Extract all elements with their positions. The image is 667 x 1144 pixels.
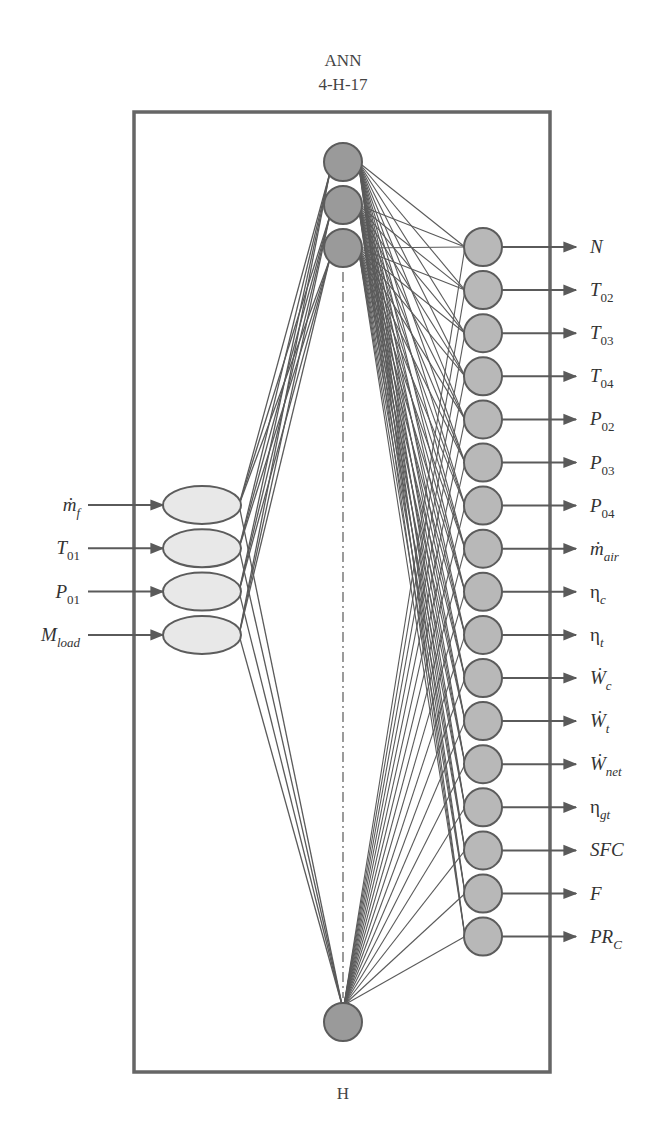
output-node	[464, 616, 502, 654]
output-label-base: η	[590, 624, 600, 645]
output-node	[464, 271, 502, 309]
output-label: ηgt	[590, 796, 610, 822]
output-label-sub: 03	[601, 333, 614, 348]
title-line1: ANN	[325, 51, 362, 70]
input-label-base: M	[40, 624, 58, 645]
output-label-base: P	[589, 452, 602, 473]
output-node	[464, 875, 502, 913]
output-label-sub: net	[606, 764, 622, 779]
input-label: Mload	[40, 624, 80, 650]
output-node	[464, 357, 502, 395]
input-node	[163, 616, 241, 654]
input-label: P01	[54, 581, 80, 607]
output-label: Ẇt	[590, 710, 610, 736]
input-arrows	[88, 505, 163, 635]
input-node	[163, 529, 241, 567]
output-label: T04	[590, 365, 614, 391]
output-label: T03	[590, 322, 614, 348]
output-node	[464, 831, 502, 869]
output-node	[464, 400, 502, 438]
output-node	[464, 745, 502, 783]
input-label-base: P	[54, 581, 67, 602]
output-label-base: F	[589, 883, 602, 904]
hidden-layer-label: H	[337, 1084, 349, 1103]
input-label-sub: 01	[67, 592, 80, 607]
output-label-sub: t	[606, 721, 610, 736]
output-node	[464, 573, 502, 611]
hidden-node	[324, 186, 362, 224]
output-label-base: P	[589, 408, 602, 429]
input-layer	[163, 486, 241, 654]
output-node	[464, 918, 502, 956]
input-label-sub: f	[76, 505, 82, 520]
output-label-sub: air	[604, 549, 620, 564]
output-label-base: SFC	[590, 839, 624, 860]
output-label: N	[589, 236, 604, 257]
output-label-sub: c	[606, 678, 612, 693]
output-label: Ẇc	[590, 667, 612, 693]
output-label: ηt	[590, 624, 604, 650]
output-label-sub: 02	[602, 419, 615, 434]
output-layer	[464, 228, 502, 956]
output-arrows	[502, 247, 576, 937]
input-label: T01	[56, 537, 80, 563]
output-label: P02	[589, 408, 615, 434]
input-label: ṁf	[63, 494, 83, 520]
output-label: Ẇnet	[590, 753, 622, 779]
output-node	[464, 444, 502, 482]
output-label-sub: 04	[601, 376, 615, 391]
output-label-sub: gt	[600, 807, 611, 822]
connection-edges	[239, 162, 465, 1005]
input-label-base: ṁ	[63, 494, 77, 515]
output-label-sub: 03	[602, 463, 615, 478]
output-label: SFC	[590, 839, 624, 860]
input-labels: ṁfT01P01Mload	[40, 494, 82, 650]
output-label-sub: t	[600, 635, 604, 650]
output-node	[464, 487, 502, 525]
output-label-sub: 04	[602, 506, 616, 521]
ann-diagram: ANN 4-H-17 ṁfT01P01Mload NT02T03T04P02P0…	[0, 0, 667, 1144]
hidden-node	[324, 229, 362, 267]
output-label: PRC	[589, 926, 622, 952]
input-label-sub: 01	[67, 548, 80, 563]
output-node	[464, 659, 502, 697]
output-node	[464, 702, 502, 740]
output-node	[464, 314, 502, 352]
output-label-base: ṁ	[590, 538, 604, 559]
input-node	[163, 573, 241, 611]
output-label-base: P	[589, 495, 602, 516]
output-label: P03	[589, 452, 615, 478]
output-label-sub: C	[613, 937, 622, 952]
input-node	[163, 486, 241, 524]
output-label: ṁair	[590, 538, 620, 564]
output-label-sub: 02	[601, 290, 614, 305]
input-label-sub: load	[57, 635, 81, 650]
output-node	[464, 530, 502, 568]
hidden-node	[324, 1003, 362, 1041]
hidden-node	[324, 143, 362, 181]
output-label: F	[589, 883, 602, 904]
output-label-base: η	[590, 796, 600, 817]
output-label-base: η	[590, 581, 600, 602]
output-label-sub: c	[600, 592, 606, 607]
output-node	[464, 788, 502, 826]
title-line2: 4-H-17	[318, 75, 368, 94]
output-label-base: PR	[589, 926, 614, 947]
output-node	[464, 228, 502, 266]
output-labels: NT02T03T04P02P03P04ṁairηcηtẆcẆtẆnetηgtSF…	[589, 236, 624, 952]
output-label: T02	[590, 279, 614, 305]
output-label-base: N	[589, 236, 604, 257]
output-label: P04	[589, 495, 615, 521]
output-label: ηc	[590, 581, 606, 607]
